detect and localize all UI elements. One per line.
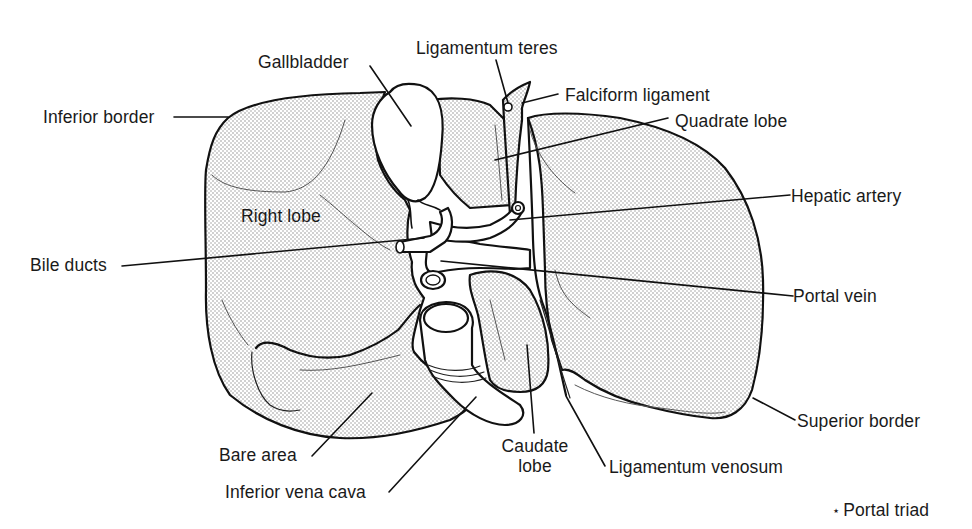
label-hepatic-artery: Hepatic artery bbox=[791, 186, 901, 206]
label-superior-border: Superior border bbox=[797, 411, 920, 431]
label-inferior-border: Inferior border bbox=[43, 107, 154, 127]
label-bile-ducts: Bile ducts bbox=[30, 255, 107, 275]
leader-falciform-ligament bbox=[522, 94, 558, 103]
liver-diagram bbox=[0, 0, 972, 529]
bile-duct-section bbox=[396, 241, 404, 253]
label-falciform-ligament: Falciform ligament bbox=[565, 85, 710, 105]
label-gallbladder: Gallbladder bbox=[258, 52, 349, 72]
label-portal-vein: Portal vein bbox=[793, 286, 877, 306]
label-right-lobe: Right lobe bbox=[241, 206, 321, 226]
label-quadrate-lobe: Quadrate lobe bbox=[675, 111, 787, 131]
label-caudate-lobe-line2: lobe bbox=[490, 456, 580, 476]
legend-portal-triad: ⋆Portal triad bbox=[832, 500, 929, 522]
ivc-opening bbox=[424, 304, 468, 332]
label-ligamentum-venosum: Ligamentum venosum bbox=[609, 457, 783, 477]
legend-text: Portal triad bbox=[843, 500, 929, 520]
label-inferior-vena-cava: Inferior vena cava bbox=[225, 482, 366, 502]
leader-ligamentum-teres bbox=[496, 60, 508, 103]
star-icon: ⋆ bbox=[832, 503, 840, 518]
label-caudate-lobe: Caudate lobe bbox=[490, 436, 580, 476]
leader-superior-border bbox=[753, 398, 795, 420]
label-bare-area: Bare area bbox=[219, 445, 297, 465]
label-caudate-lobe-line1: Caudate bbox=[490, 436, 580, 456]
left-lobe-shape bbox=[528, 114, 763, 419]
caudate-lobe-shape bbox=[470, 271, 549, 392]
ligamentum-teres-section bbox=[504, 103, 512, 111]
label-ligamentum-teres: Ligamentum teres bbox=[416, 38, 558, 58]
portal-vein-lumen bbox=[426, 275, 440, 285]
hepatic-artery-lumen bbox=[516, 206, 521, 211]
